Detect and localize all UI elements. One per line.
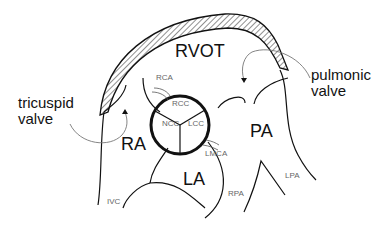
pa-branch (244, 161, 285, 212)
label-rvot: RVOT (175, 42, 225, 60)
tricuspid-leader (70, 112, 127, 143)
label-rcc: RCC (172, 100, 189, 108)
label-pa: PA (250, 122, 273, 140)
label-la: LA (183, 170, 205, 188)
label-lpa: LPA (285, 172, 300, 180)
ivc-wall (123, 183, 150, 208)
label-ncc: NCC (162, 120, 179, 128)
pulmonic-leaflet-right (254, 78, 288, 104)
label-ivc: IVC (107, 198, 120, 206)
ra-wall (98, 112, 104, 205)
label-lmca: LMCA (205, 150, 227, 158)
label-lcc: LCC (188, 120, 204, 128)
pulmonic-leaflet-left (218, 97, 245, 108)
label-ra: RA (121, 135, 146, 153)
label-rpa: RPA (228, 190, 244, 198)
callout-pulmonic-valve: pulmonic valve (311, 67, 371, 99)
label-rca: RCA (156, 74, 173, 82)
callout-tricuspid-valve: tricuspid valve (18, 95, 74, 127)
